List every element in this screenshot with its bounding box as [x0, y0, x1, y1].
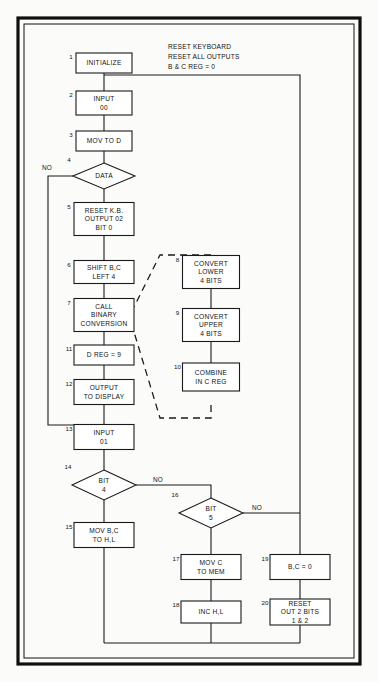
- flowchart-page: INITIALIZE1INPUT002MOV TO D3DATA4RESET K…: [0, 0, 378, 682]
- node-label-line: SHIFT B,C: [87, 264, 121, 271]
- node-label-line: IN C REG: [195, 378, 226, 385]
- node-step-number: 5: [67, 203, 71, 210]
- node-label-line: LEFT 4: [92, 273, 115, 280]
- flow-node-8[interactable]: CONVERTLOWER4 BITS8: [176, 256, 240, 289]
- node-step-number: 10: [174, 363, 181, 370]
- node-label-line: RESET: [288, 600, 311, 607]
- node-label-line: CONVERT: [194, 313, 228, 320]
- node-step-number: 13: [66, 425, 73, 432]
- branch-label-no: NO: [252, 504, 262, 511]
- node-label-line: 00: [100, 104, 108, 111]
- flow-node-1[interactable]: INITIALIZE1: [69, 53, 132, 73]
- node-label-line: LOWER: [198, 268, 223, 275]
- node-step-number: 9: [176, 309, 180, 316]
- note-line: RESET ALL OUTPUTS: [168, 53, 240, 60]
- branch-label-no: NO: [42, 164, 52, 171]
- node-step-number: 1: [69, 53, 73, 60]
- node-step-number: 6: [67, 261, 71, 268]
- node-label-line: 5: [209, 514, 213, 521]
- node-label-line: D REG = 9: [87, 351, 121, 358]
- flow-node-2[interactable]: INPUT002: [69, 91, 132, 115]
- node-label-line: BIT: [205, 505, 216, 512]
- node-step-number: 8: [176, 256, 180, 263]
- node-label-line: 1 & 2: [292, 617, 309, 624]
- node-label-line: BIT: [98, 477, 109, 484]
- node-step-number: 3: [69, 131, 73, 138]
- node-label-line: 4 BITS: [200, 330, 222, 337]
- flow-node-10[interactable]: COMBINEIN C REG10: [174, 363, 239, 391]
- flow-node-3[interactable]: MOV TO D3: [69, 131, 132, 151]
- node-step-number: 14: [65, 463, 72, 470]
- flow-node-15[interactable]: MOV B,CTO H,L15: [66, 523, 134, 548]
- node-label-line: COMBINE: [195, 369, 228, 376]
- flow-node-18[interactable]: INC H,L18: [173, 601, 241, 623]
- branch-label-no: NO: [153, 476, 163, 483]
- node-label-line: CONVERT: [194, 260, 228, 267]
- node-label-line: UPPER: [199, 321, 223, 328]
- node-step-number: 18: [173, 601, 180, 608]
- flow-node-9[interactable]: CONVERTUPPER4 BITS9: [176, 309, 240, 342]
- node-label-line: MOV TO D: [87, 137, 121, 144]
- flow-node-17[interactable]: MOV CTO MEM17: [173, 555, 241, 580]
- flow-node-4[interactable]: DATA4: [67, 156, 135, 189]
- node-label-line: MOV C: [200, 559, 223, 566]
- flow-node-6[interactable]: SHIFT B,CLEFT 46: [67, 261, 134, 284]
- node-label-line: MOV B,C: [89, 527, 119, 534]
- node-step-number: 11: [66, 345, 73, 352]
- node-label-line: 4 BITS: [200, 277, 222, 284]
- flow-node-20[interactable]: RESETOUT 2 BITS1 & 220: [262, 599, 330, 625]
- flow-node-19[interactable]: B,C = 019: [262, 555, 330, 580]
- flowchart-canvas: INITIALIZE1INPUT002MOV TO D3DATA4RESET K…: [0, 0, 378, 682]
- node-label-line: INITIALIZE: [86, 59, 121, 66]
- flow-node-13[interactable]: INPUT0113: [66, 425, 134, 450]
- node-step-number: 17: [173, 555, 180, 562]
- node-step-number: 7: [67, 299, 71, 306]
- note-line: B & C REG = 0: [168, 63, 215, 70]
- flow-node-12[interactable]: OUTPUTTO DISPLAY12: [66, 380, 134, 405]
- node-label-line: OUTPUT: [90, 384, 119, 391]
- node-label-line: CONVERSION: [81, 320, 128, 327]
- node-label-line: TO H,L: [93, 536, 116, 543]
- node-label-line: OUTPUT 02: [85, 215, 123, 222]
- node-label-line: INPUT: [93, 429, 114, 436]
- node-step-number: 19: [262, 555, 269, 562]
- node-step-number: 16: [172, 491, 179, 498]
- flow-node-7[interactable]: CALLBINARYCONVERSION7: [67, 299, 134, 332]
- node-step-number: 20: [262, 599, 269, 606]
- node-label-line: BINARY: [91, 311, 117, 318]
- flow-node-5[interactable]: RESET K.B.OUTPUT 02BIT 05: [67, 203, 134, 236]
- node-label-line: DATA: [95, 172, 113, 179]
- node-step-number: 12: [66, 380, 73, 387]
- note-line: RESET KEYBOARD: [168, 43, 231, 50]
- node-label-line: INC H,L: [198, 608, 223, 615]
- node-label-line: RESET K.B.: [85, 207, 124, 214]
- node-label-line: TO MEM: [197, 568, 225, 575]
- node-label-line: OUT 2 BITS: [281, 608, 320, 615]
- node-label-line: BIT 0: [96, 224, 113, 231]
- node-label-line: 4: [102, 486, 106, 493]
- node-step-number: 2: [69, 91, 73, 98]
- node-step-number: 4: [67, 156, 71, 163]
- node-step-number: 15: [66, 523, 73, 530]
- node-label-line: 01: [100, 438, 108, 445]
- node-label-line: TO DISPLAY: [84, 393, 125, 400]
- node-label-line: CALL: [95, 303, 113, 310]
- initialize-note: RESET KEYBOARDRESET ALL OUTPUTSB & C REG…: [168, 43, 240, 70]
- node-label-line: B,C = 0: [288, 563, 312, 570]
- flow-node-16[interactable]: BIT516: [172, 491, 243, 528]
- node-label-line: INPUT: [93, 95, 114, 102]
- flow-node-14[interactable]: BIT414: [65, 463, 136, 500]
- flow-node-11[interactable]: D REG = 911: [66, 345, 134, 365]
